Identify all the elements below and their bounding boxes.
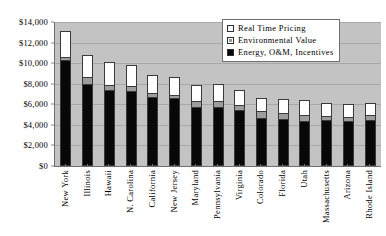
x-axis-tick-mark xyxy=(65,164,66,167)
x-axis-slot: Hawaii xyxy=(97,167,119,236)
bar-slot xyxy=(142,22,164,166)
bar-segment xyxy=(257,111,266,118)
bar-segment xyxy=(83,77,92,84)
y-axis-tick-label: $8,000 xyxy=(23,79,48,88)
bar-segment xyxy=(300,101,309,114)
bar-slot xyxy=(98,22,120,166)
stacked-bar[interactable] xyxy=(104,62,115,166)
stacked-bar[interactable] xyxy=(234,90,245,166)
bar-segment xyxy=(105,90,114,165)
y-axis-tick-label: $6,000 xyxy=(23,100,48,109)
x-axis-tick-label: N. Carolina xyxy=(126,170,135,213)
bar-segment xyxy=(170,98,179,165)
x-axis-tick-label: New York xyxy=(60,170,69,207)
stacked-bar[interactable] xyxy=(299,100,310,166)
bar-segment xyxy=(322,120,331,165)
bar-segment xyxy=(127,91,136,165)
bar-slot xyxy=(338,22,360,166)
x-axis-slot: Colorado xyxy=(250,167,272,236)
x-axis-tick-mark xyxy=(195,164,196,167)
stacked-bar[interactable] xyxy=(126,65,137,166)
x-axis-tick-label: Arizona xyxy=(343,170,352,199)
bar-segment xyxy=(148,76,157,92)
bar-segment xyxy=(279,100,288,113)
bar-slot xyxy=(77,22,99,166)
x-axis-tick-label: Maryland xyxy=(191,170,200,205)
bar-slot xyxy=(185,22,207,166)
stacked-bar[interactable] xyxy=(82,55,93,166)
bar-segment xyxy=(214,107,223,165)
x-axis-tick-mark xyxy=(217,164,218,167)
y-axis-tick-label: $2,000 xyxy=(23,141,48,150)
y-axis-tick-label: $0 xyxy=(39,162,48,171)
x-axis-tick-label: New Jersey xyxy=(169,170,178,212)
x-axis-tick-label: Utah xyxy=(299,170,308,188)
x-axis-tick-label: Hawaii xyxy=(104,170,113,196)
x-axis-slot: Pennsylvania xyxy=(206,167,228,236)
legend-item[interactable]: Energy, O&M, Incentives xyxy=(227,46,334,58)
bar-segment xyxy=(366,104,375,115)
legend-item-label: Real Time Pricing xyxy=(238,24,306,33)
stacked-bar[interactable] xyxy=(365,103,376,166)
x-axis-slot: N. Carolina xyxy=(119,167,141,236)
x-axis-slot: Illinois xyxy=(76,167,98,236)
bar-segment xyxy=(61,32,70,57)
x-axis-tick-mark xyxy=(282,164,283,167)
stacked-bar[interactable] xyxy=(278,99,289,166)
stacked-bar-chart: $14,000$12,000$10,000$8,000$6,000$4,000$… xyxy=(0,0,386,236)
stacked-bar[interactable] xyxy=(60,31,71,166)
x-axis-tick-mark xyxy=(87,164,88,167)
bar-segment xyxy=(344,105,353,117)
stacked-bar[interactable] xyxy=(191,85,202,166)
stacked-bar[interactable] xyxy=(256,98,267,166)
stacked-bar[interactable] xyxy=(147,75,158,166)
x-axis-tick-label: Rhode Island xyxy=(365,170,374,219)
bar-segment xyxy=(61,60,70,165)
stacked-bar[interactable] xyxy=(169,77,180,166)
bar-segment xyxy=(366,120,375,165)
bar-segment xyxy=(235,91,244,105)
bar-segment xyxy=(322,104,331,116)
x-axis-slot: California xyxy=(141,167,163,236)
x-axis-tick-label: Pennsylvania xyxy=(213,170,222,219)
white-square-icon xyxy=(227,25,234,32)
x-axis-slot: Maryland xyxy=(184,167,206,236)
stacked-bar[interactable] xyxy=(343,104,354,166)
legend-item[interactable]: Environmental Value xyxy=(227,34,334,46)
x-axis-tick-mark xyxy=(369,164,370,167)
x-axis-tick-mark xyxy=(326,164,327,167)
gray-square-icon xyxy=(227,37,234,44)
x-axis-slot: New York xyxy=(54,167,76,236)
bar-slot xyxy=(164,22,186,166)
x-axis-tick-mark xyxy=(260,164,261,167)
legend-item-label: Environmental Value xyxy=(238,36,317,45)
x-axis-tick-label: Colorado xyxy=(256,170,265,204)
bar-segment xyxy=(83,56,92,77)
x-axis-slot: Virginia xyxy=(228,167,250,236)
bar-slot xyxy=(120,22,142,166)
bar-segment xyxy=(105,63,114,86)
x-axis-tick-label: Florida xyxy=(278,170,287,197)
x-axis-slot: Utah xyxy=(293,167,315,236)
bar-segment xyxy=(300,121,309,165)
bar-slot xyxy=(55,22,77,166)
x-axis-tick-label: Massachusetts xyxy=(321,170,330,223)
chart-legend: Real Time PricingEnvironmental ValueEner… xyxy=(222,19,340,62)
bar-segment xyxy=(279,119,288,165)
y-axis-tick-label: $10,000 xyxy=(19,59,48,68)
stacked-bar[interactable] xyxy=(213,84,224,166)
stacked-bar[interactable] xyxy=(321,103,332,166)
bar-segment xyxy=(235,110,244,166)
legend-item[interactable]: Real Time Pricing xyxy=(227,22,334,34)
y-axis-tick-label: $4,000 xyxy=(23,121,48,130)
bar-slot xyxy=(359,22,381,166)
x-axis-tick-mark xyxy=(108,164,109,167)
x-axis-slot: Rhode Island xyxy=(358,167,380,236)
bar-segment xyxy=(214,85,223,101)
x-axis-slot: Florida xyxy=(271,167,293,236)
x-axis-tick-mark xyxy=(130,164,131,167)
bar-segment xyxy=(257,99,266,111)
y-axis-tick-label: $12,000 xyxy=(19,38,48,47)
x-axis-tick-label: Virginia xyxy=(234,170,243,200)
x-axis-tick-mark xyxy=(239,164,240,167)
